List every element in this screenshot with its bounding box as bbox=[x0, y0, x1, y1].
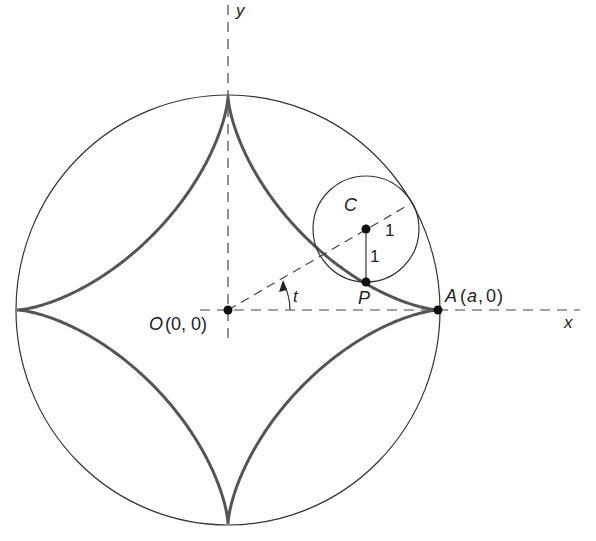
label-O: O bbox=[149, 314, 163, 334]
label-A-var: a bbox=[467, 286, 477, 306]
label-P: P bbox=[358, 288, 370, 308]
label-O-coords: (0, 0) bbox=[165, 314, 207, 334]
label-A-rest: , bbox=[478, 286, 483, 306]
astroid-diagram: y x O (0, 0) A ( a , 0 ) C P t 1 1 bbox=[0, 0, 596, 541]
label-A-open: ( bbox=[460, 286, 466, 306]
y-axis-label: y bbox=[235, 1, 246, 20]
label-radius-1-vert: 1 bbox=[370, 247, 379, 266]
label-C: C bbox=[344, 195, 358, 215]
point-C bbox=[362, 225, 371, 234]
point-O bbox=[224, 306, 233, 315]
label-radius-1-diag: 1 bbox=[385, 221, 394, 240]
arrowhead-icon bbox=[279, 280, 287, 292]
x-axis-label: x bbox=[563, 313, 573, 332]
label-t: t bbox=[293, 287, 299, 306]
label-A-zero: 0 bbox=[486, 286, 496, 306]
label-A-close: ) bbox=[497, 286, 503, 306]
point-A bbox=[434, 306, 443, 315]
point-P bbox=[362, 278, 371, 287]
label-A: A bbox=[444, 286, 457, 306]
